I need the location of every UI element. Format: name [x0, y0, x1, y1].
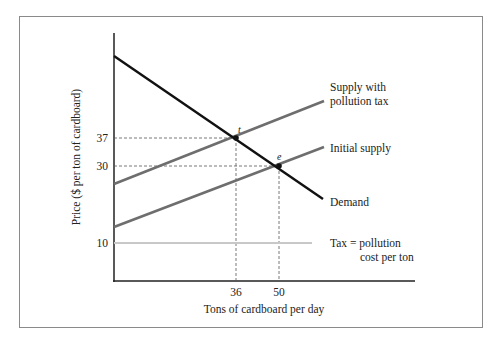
- supply-tax-label-1: Supply with: [330, 81, 386, 94]
- demand-label: Demand: [330, 196, 369, 208]
- tax-label-1: Tax = pollution: [330, 237, 401, 250]
- y-tick-30: 30: [97, 160, 109, 172]
- y-axis-title: Price ($ per ton of cardboard): [70, 89, 83, 226]
- y-tick-37: 37: [97, 132, 109, 144]
- demand-line: [114, 56, 323, 199]
- tax-label-2: cost per ton: [360, 251, 414, 264]
- point-e-label: e: [277, 151, 282, 162]
- initial-supply-label: Initial supply: [330, 142, 391, 155]
- x-tick-36: 36: [230, 286, 242, 298]
- point-t-marker: [233, 135, 239, 141]
- point-t-label: t: [238, 124, 241, 135]
- y-tick-10: 10: [97, 237, 109, 249]
- point-e-marker: [276, 163, 282, 169]
- supply-tax-label-2: pollution tax: [330, 95, 389, 108]
- supply-with-tax-line: [114, 101, 324, 184]
- chart-canvas: t e 37 30 10 36 50 Tons of cardboard per…: [0, 0, 496, 343]
- x-tick-50: 50: [273, 286, 285, 298]
- initial-supply-line: [114, 147, 324, 227]
- x-axis-title: Tons of cardboard per day: [204, 303, 325, 316]
